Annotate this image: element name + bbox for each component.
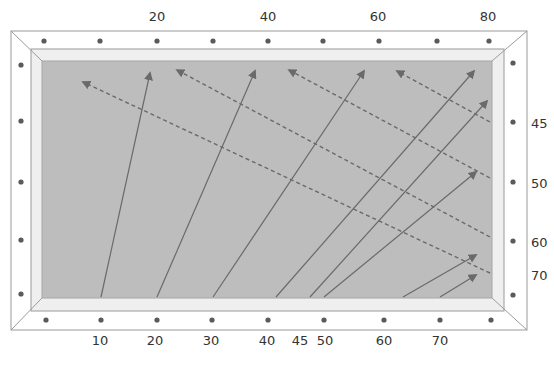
field-area [42, 61, 492, 298]
frame-dot [321, 317, 326, 322]
bottom-label: 20 [147, 333, 164, 348]
frame-dot [154, 317, 159, 322]
frame-dot [510, 238, 515, 243]
frame-dot [510, 179, 515, 184]
right-label: 60 [531, 235, 548, 250]
frame-dot [18, 179, 23, 184]
frame-dot [41, 38, 46, 43]
frame-dot [154, 38, 159, 43]
frame-dot [98, 317, 103, 322]
frame-dot [488, 317, 493, 322]
frame-dot [510, 119, 515, 124]
bottom-label: 30 [203, 333, 220, 348]
frame-dot [43, 317, 48, 322]
frame-dot [97, 38, 102, 43]
frame-dot [18, 118, 23, 123]
frame-dot [510, 292, 515, 297]
frame-dot [265, 317, 270, 322]
bottom-label: 40 [259, 333, 276, 348]
right-label: 70 [531, 268, 548, 283]
frame-dot [18, 237, 23, 242]
diagram-stage: 20406080102030404550607045506070 [0, 0, 554, 367]
frame-dot [437, 317, 442, 322]
frame-dot [376, 38, 381, 43]
bottom-label: 50 [317, 333, 334, 348]
frame-dot [265, 38, 270, 43]
frame-dot [18, 291, 23, 296]
frame-dot [320, 38, 325, 43]
top-label: 20 [149, 9, 166, 24]
frame-dot [434, 38, 439, 43]
frame-diagram [0, 0, 554, 367]
frame-dot [210, 38, 215, 43]
frame-dot [18, 62, 23, 67]
bottom-label: 10 [92, 333, 109, 348]
bottom-label: 70 [432, 333, 449, 348]
frame-dot [209, 317, 214, 322]
bottom-label: 60 [376, 333, 393, 348]
right-label: 50 [531, 176, 548, 191]
top-label: 60 [370, 9, 387, 24]
top-label: 40 [260, 9, 277, 24]
bottom-label: 45 [292, 333, 309, 348]
right-label: 45 [531, 116, 548, 131]
frame-dot [510, 60, 515, 65]
frame-dot [486, 38, 491, 43]
top-label: 80 [480, 9, 497, 24]
frame-dot [381, 317, 386, 322]
